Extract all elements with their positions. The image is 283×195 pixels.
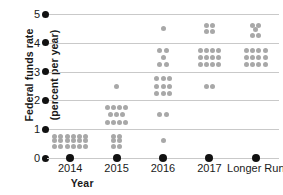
data-dot bbox=[167, 84, 172, 89]
data-dot bbox=[244, 62, 249, 67]
data-dot bbox=[123, 105, 128, 110]
data-dot bbox=[117, 105, 122, 110]
data-dot bbox=[83, 138, 88, 143]
data-dot bbox=[105, 105, 110, 110]
data-dot bbox=[210, 62, 215, 67]
data-dot bbox=[161, 26, 166, 31]
data-dot bbox=[204, 23, 209, 28]
y-tick-marker bbox=[42, 11, 49, 18]
y-tick-label: 1 bbox=[20, 124, 40, 135]
data-dot bbox=[250, 55, 255, 60]
data-dot bbox=[167, 91, 172, 96]
data-dot bbox=[167, 76, 172, 81]
data-dot bbox=[120, 112, 125, 117]
data-dot bbox=[210, 55, 215, 60]
x-axis-marker bbox=[159, 154, 167, 162]
data-dot bbox=[263, 55, 268, 60]
gridline bbox=[47, 129, 279, 130]
data-dot bbox=[250, 33, 255, 38]
data-dot bbox=[244, 48, 249, 53]
data-dot bbox=[204, 48, 209, 53]
data-dot bbox=[157, 112, 162, 117]
data-dot bbox=[161, 84, 166, 89]
x-axis-marker bbox=[205, 154, 213, 162]
data-dot bbox=[117, 138, 122, 143]
data-dot bbox=[117, 120, 122, 125]
x-axis-marker bbox=[252, 154, 260, 162]
gridline bbox=[47, 43, 279, 44]
data-dot bbox=[71, 144, 76, 149]
gridline bbox=[47, 14, 279, 15]
data-dot bbox=[204, 62, 209, 67]
data-dot bbox=[83, 144, 88, 149]
x-tick-label-longer-run: Longer Run bbox=[218, 162, 283, 174]
data-dot bbox=[164, 62, 169, 67]
gridline bbox=[47, 72, 279, 73]
data-dot bbox=[210, 84, 215, 89]
data-dot bbox=[204, 29, 209, 34]
data-dot bbox=[154, 76, 159, 81]
y-tick-marker bbox=[42, 68, 49, 75]
data-dot bbox=[105, 120, 110, 125]
data-dot bbox=[216, 48, 221, 53]
gridline bbox=[47, 100, 279, 101]
data-dot bbox=[210, 48, 215, 53]
x-axis-marker bbox=[113, 154, 121, 162]
data-dot bbox=[198, 55, 203, 60]
data-dot bbox=[216, 62, 221, 67]
data-dot bbox=[256, 33, 261, 38]
data-dot bbox=[244, 55, 249, 60]
data-dot bbox=[161, 138, 166, 143]
data-dot bbox=[111, 120, 116, 125]
dot-plot-chart: Federal funds rate (percent per year) 01… bbox=[0, 0, 283, 195]
data-dot bbox=[157, 48, 162, 53]
data-dot bbox=[263, 62, 268, 67]
data-dot bbox=[256, 55, 261, 60]
data-dot bbox=[164, 48, 169, 53]
y-tick-marker bbox=[42, 126, 49, 133]
data-dot bbox=[111, 144, 116, 149]
data-dot bbox=[216, 55, 221, 60]
data-dot bbox=[117, 144, 122, 149]
y-tick-label: 3 bbox=[20, 67, 40, 78]
data-dot bbox=[256, 62, 261, 67]
data-dot bbox=[65, 144, 70, 149]
data-dot bbox=[157, 62, 162, 67]
data-dot bbox=[250, 62, 255, 67]
y-tick-label: 2 bbox=[20, 95, 40, 106]
data-dot bbox=[58, 144, 63, 149]
data-dot bbox=[210, 23, 215, 28]
data-dot bbox=[161, 55, 166, 60]
data-dot bbox=[52, 138, 57, 143]
data-dot bbox=[161, 76, 166, 81]
data-dot bbox=[164, 112, 169, 117]
data-dot bbox=[71, 138, 76, 143]
data-dot bbox=[250, 48, 255, 53]
data-dot bbox=[154, 91, 159, 96]
data-dot bbox=[204, 55, 209, 60]
plot-area: 012345 bbox=[47, 14, 279, 158]
data-dot bbox=[111, 138, 116, 143]
data-dot bbox=[52, 144, 57, 149]
data-dot bbox=[204, 84, 209, 89]
y-tick-label: 5 bbox=[20, 9, 40, 20]
y-tick-marker bbox=[42, 39, 49, 46]
y-tick-marker bbox=[42, 97, 49, 104]
x-axis-marker bbox=[66, 154, 74, 162]
data-dot bbox=[111, 105, 116, 110]
x-axis-title: Year bbox=[32, 177, 132, 189]
data-dot bbox=[198, 62, 203, 67]
data-dot bbox=[77, 138, 82, 143]
data-dot bbox=[123, 120, 128, 125]
data-dot bbox=[161, 91, 166, 96]
data-dot bbox=[198, 48, 203, 53]
data-dot bbox=[77, 144, 82, 149]
y-tick-label: 4 bbox=[20, 38, 40, 49]
data-dot bbox=[114, 84, 119, 89]
data-dot bbox=[256, 48, 261, 53]
data-dot bbox=[263, 48, 268, 53]
data-dot bbox=[154, 84, 159, 89]
data-dot bbox=[108, 112, 113, 117]
data-dot bbox=[253, 27, 258, 32]
data-dot bbox=[210, 29, 215, 34]
